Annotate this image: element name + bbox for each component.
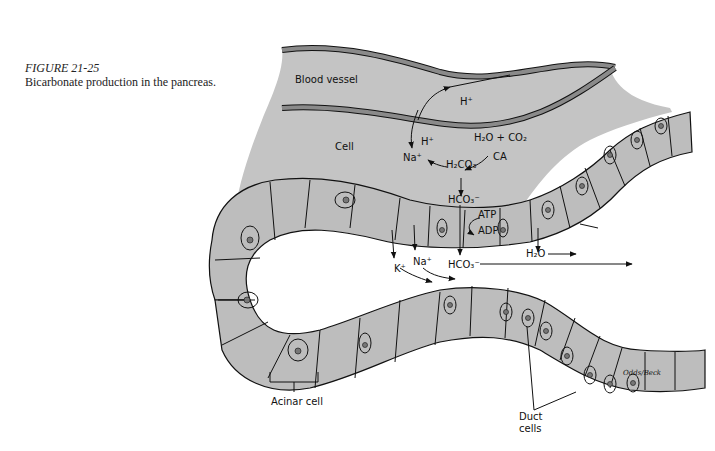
- pancreas-bicarbonate-diagram: Blood vessel Cell H⁺ H⁺ Na⁺ H₂O + CO₂ CA…: [0, 0, 715, 451]
- label-atp: ATP: [478, 209, 496, 220]
- label-duct-cells-1: Duct: [519, 411, 543, 422]
- artist-signature: Odds/Beck: [623, 369, 661, 377]
- label-cell: Cell: [335, 141, 354, 152]
- label-blood-vessel: Blood vessel: [295, 74, 358, 85]
- label-k-plus: K⁺: [394, 263, 406, 274]
- label-adp: ADP: [478, 225, 499, 236]
- label-h-plus-top: H⁺: [460, 96, 473, 107]
- label-acinar-cell: Acinar cell: [271, 396, 323, 407]
- label-h2o-co2: H₂O + CO₂: [474, 132, 527, 143]
- label-hco3-lumen: HCO₃⁻: [448, 259, 480, 270]
- label-hco3-cell: HCO₃⁻: [448, 194, 480, 205]
- label-h2co3: H₂CO₃: [446, 159, 476, 170]
- label-h2o-lumen: H₂O: [526, 248, 546, 259]
- label-duct-cells-2: cells: [519, 423, 541, 434]
- label-ca: CA: [493, 151, 507, 162]
- label-na-plus-lumen: Na⁺: [413, 256, 432, 267]
- label-na-plus-cell: Na⁺: [403, 152, 422, 163]
- label-h-plus-inner: H⁺: [421, 136, 434, 147]
